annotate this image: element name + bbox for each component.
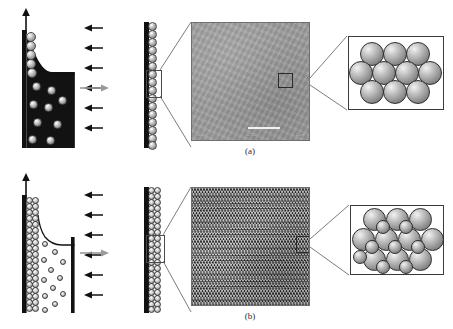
container-wall-b [71, 237, 75, 313]
sem-status-left-a: 15.0kV [196, 133, 208, 137]
sem-status-bar-a: 15.0kV x2,500 10µm [196, 131, 305, 138]
evaporation-arrow-icon [84, 25, 103, 32]
suspended-bead [33, 118, 42, 127]
suspended-bead-small [42, 293, 48, 299]
suspended-bead [53, 120, 62, 129]
magnified-inset-a [348, 36, 444, 110]
suspended-bead-small [42, 307, 48, 313]
suspended-bead-small [48, 267, 54, 273]
sem-status-mid-b: x10,000 [246, 298, 259, 302]
evaporation-arrows-b [84, 192, 103, 299]
suspended-bead [32, 82, 41, 91]
suspended-bead-small [60, 259, 66, 265]
sem-status-mid-a: x2,500 [246, 133, 257, 137]
sem-roi-box-a [278, 73, 293, 88]
inset-interstitial-sphere [376, 260, 390, 274]
evaporation-arrow-icon [84, 65, 103, 72]
evaporation-arrow-icon [84, 232, 103, 239]
evaporation-arrow-icon [84, 292, 103, 299]
inset-interstitial-sphere [376, 220, 390, 234]
panel-b: 15.0kV x10,000 1µm [0, 165, 453, 329]
suspended-bead [28, 135, 37, 144]
figure-colloidal-self-assembly: 15.0kV x2,500 10µm (a) [0, 0, 453, 329]
suspended-bead [58, 96, 67, 105]
film-bead [148, 141, 157, 150]
inset-interstitial-sphere [411, 240, 425, 254]
suspended-bead-small [52, 301, 58, 307]
sem-scalebar-a [248, 127, 280, 129]
panel-a: 15.0kV x2,500 10µm (a) [0, 0, 453, 164]
suspended-bead [44, 103, 53, 112]
schematic-a-svg [8, 8, 128, 153]
suspended-bead [47, 86, 56, 95]
suspended-bead-small [41, 257, 47, 263]
suspended-bead-small [60, 291, 66, 297]
inset-interstitial-sphere [399, 220, 413, 234]
sem-status-left-b: 15.0kV [196, 298, 208, 302]
inset-sphere [360, 80, 384, 104]
evaporation-arrows-a [84, 25, 103, 132]
film-bead-small [154, 306, 161, 313]
inset-interstitial-sphere [388, 240, 402, 254]
ordered-bead-small [32, 305, 39, 312]
sem-roi-box-b [296, 236, 310, 253]
sem-status-right-b: 1µm [298, 298, 305, 302]
panel-label-b: (b) [220, 311, 280, 321]
panel-label-a: (a) [220, 146, 280, 156]
leader-lines-inset-b [310, 187, 350, 306]
evaporation-arrow-icon [84, 45, 103, 52]
schematic-b [8, 173, 128, 318]
leader-lines-b [163, 187, 192, 313]
evaporation-arrow-icon [84, 105, 103, 112]
evaporation-arrow-icon [84, 192, 103, 199]
schematic-a [8, 8, 128, 153]
magnified-inset-b [350, 205, 444, 275]
suspended-bead-small [52, 249, 58, 255]
inset-sphere [406, 80, 430, 104]
evaporation-arrow-icon [84, 212, 103, 219]
leader-lines-a [160, 22, 192, 148]
sem-micrograph-a: 15.0kV x2,500 10µm [191, 22, 310, 141]
inset-interstitial-sphere [399, 260, 413, 274]
suspended-bead-small [57, 275, 63, 281]
inset-interstitial-sphere [365, 240, 379, 254]
suspended-bead [46, 136, 55, 145]
evaporation-arrow-icon [84, 125, 103, 132]
leader-lines-inset-a [310, 22, 348, 141]
transition-arrow-icon [80, 82, 110, 94]
suspended-bead [29, 100, 38, 109]
sem-micrograph-b: 15.0kV x10,000 1µm [191, 187, 310, 306]
inset-interstitial-sphere [353, 250, 367, 264]
sem-status-right-a: 10µm [296, 133, 305, 137]
ordered-bead [27, 68, 37, 78]
suspended-bead-small [41, 277, 47, 283]
evaporation-arrow-icon [84, 272, 103, 279]
suspended-bead-small [42, 241, 48, 247]
suspended-bead-small [50, 285, 56, 291]
transition-arrow-icon [80, 247, 110, 259]
inset-sphere [383, 80, 407, 104]
